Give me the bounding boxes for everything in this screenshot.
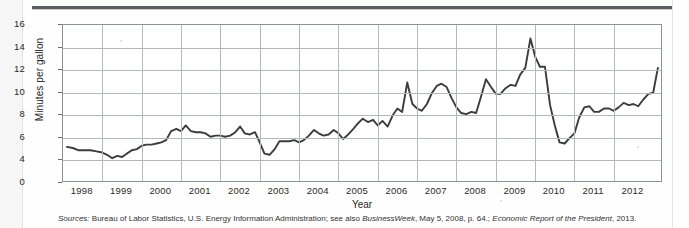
- y-tick-label: 10: [0, 86, 25, 97]
- sources-italic-businessweek: BusinessWeek: [362, 214, 415, 223]
- gridline-vertical: [456, 25, 457, 181]
- gridline-vertical: [299, 25, 300, 181]
- gridline-vertical: [102, 25, 103, 181]
- y-tick-label: 12: [0, 63, 25, 74]
- y-tick-mark: [58, 182, 62, 183]
- scan-artifact: [637, 146, 639, 148]
- y-tick-label: 4: [0, 153, 25, 164]
- gridline-horizontal: [63, 138, 661, 139]
- gridline-vertical: [574, 25, 575, 181]
- sources-note: Sources: Bureau of Labor Statistics, U.S…: [58, 213, 674, 224]
- gridline-vertical: [142, 25, 143, 181]
- gridline-horizontal: [63, 93, 661, 94]
- gridline-horizontal: [63, 115, 661, 116]
- x-axis-title: Year: [62, 199, 662, 210]
- gridline-vertical: [220, 25, 221, 181]
- gridline-horizontal: [63, 70, 661, 71]
- gridline-vertical: [181, 25, 182, 181]
- x-tick-label: 2012: [602, 185, 662, 196]
- sources-label: Sources:: [58, 214, 90, 223]
- gridline-horizontal: [63, 48, 661, 49]
- y-tick-label: 6: [0, 131, 25, 142]
- y-tick-label: 8: [0, 108, 25, 119]
- scan-artifact: [500, 200, 502, 202]
- figure-container: Minutes per gallon 161412108640 19981999…: [0, 0, 689, 228]
- gridline-vertical: [338, 25, 339, 181]
- gridline-vertical: [378, 25, 379, 181]
- gridline-horizontal: [63, 183, 661, 184]
- gridline-horizontal: [63, 25, 661, 26]
- scan-artifact: [120, 40, 122, 42]
- y-tick-label: 0: [0, 176, 25, 187]
- gridline-vertical: [417, 25, 418, 181]
- gridline-vertical: [496, 25, 497, 181]
- y-tick-label: 14: [0, 41, 25, 52]
- gridline-vertical: [260, 25, 261, 181]
- gridline-vertical: [535, 25, 536, 181]
- y-tick-label: 16: [0, 18, 25, 29]
- gridline-vertical: [614, 25, 615, 181]
- sources-text-1: Bureau of Labor Statistics, U.S. Energy …: [90, 214, 363, 223]
- sources-text-3: , 2013.: [612, 214, 636, 223]
- sources-text-2: , May 5, 2008, p. 64.;: [415, 214, 492, 223]
- plot-area: [62, 24, 662, 182]
- gridline-horizontal: [63, 160, 661, 161]
- y-axis-title: Minutes per gallon: [34, 5, 45, 155]
- sources-italic-erp: Economic Report of the President: [492, 214, 612, 223]
